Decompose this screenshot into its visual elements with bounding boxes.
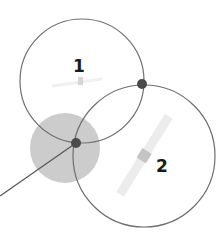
satellite-1-icon <box>52 77 102 87</box>
satellite-1-label: 1 <box>73 56 85 76</box>
satellite-trilateration-diagram: 1 2 <box>0 0 224 252</box>
intersection-dot-top <box>137 79 147 89</box>
satellite-2-label: 2 <box>156 156 168 176</box>
intersection-dot-bottom <box>71 138 81 148</box>
shaded-region <box>30 113 100 183</box>
